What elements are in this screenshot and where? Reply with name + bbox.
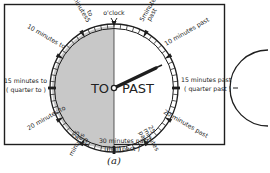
- label-10-to: 10 minutes to: [26, 22, 67, 50]
- label-10-past: 10 minutes past: [163, 15, 211, 47]
- clock-diagram: TO PAST o'clock 5 minutes past 10 minute…: [0, 0, 270, 173]
- to-label: TO: [90, 81, 109, 96]
- label-quarter-to: ( quarter to ): [6, 86, 46, 94]
- label-half-past: ( half past ): [104, 145, 140, 153]
- past-label: PAST: [122, 81, 154, 96]
- label-15-past: 15 minutes past: [181, 76, 232, 84]
- oclock-marker: [111, 18, 117, 23]
- oclock-label: o'clock: [103, 9, 125, 16]
- label-30-past: 30 minutes past: [99, 137, 150, 145]
- label-5-to: 5 minutes to: [72, 0, 97, 24]
- figure-caption: (a): [107, 155, 121, 166]
- label-quarter-past: ( quarter past ): [184, 85, 231, 93]
- label-15-to: 15 minutes to: [4, 77, 47, 84]
- label-20-past: 20 minutes past: [162, 108, 210, 140]
- hand-pivot: [111, 85, 116, 90]
